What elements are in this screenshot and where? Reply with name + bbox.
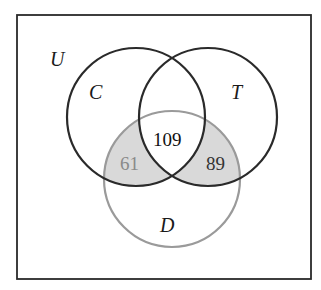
set-label-c: C <box>89 81 103 103</box>
value-t-d: 89 <box>206 153 225 174</box>
value-c-d: 61 <box>120 153 139 174</box>
set-label-t: T <box>231 81 244 103</box>
set-label-d: D <box>159 214 175 236</box>
value-c-t-d: 109 <box>153 129 182 150</box>
universe-label: U <box>50 48 66 70</box>
venn-diagram: U C T D 109 61 89 <box>0 0 321 290</box>
